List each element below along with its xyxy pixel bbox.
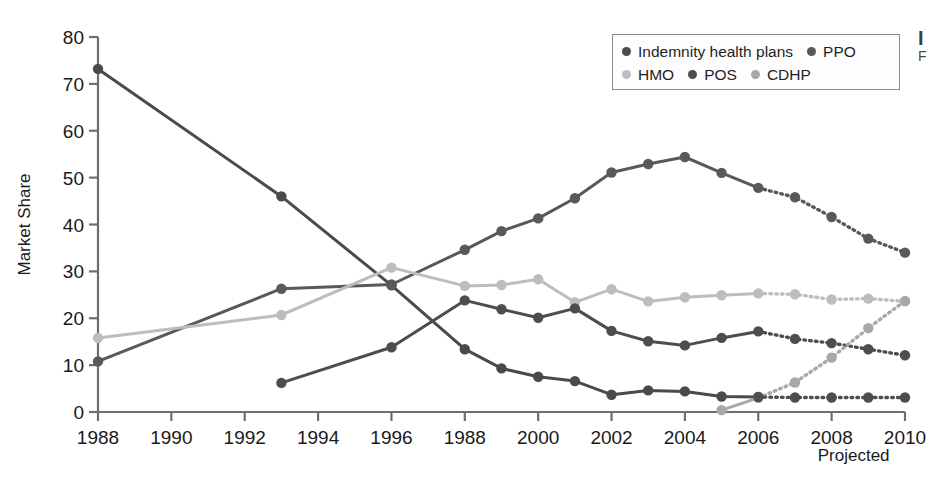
x-tick-label: 2006 (737, 427, 779, 448)
data-point[interactable] (643, 296, 653, 306)
data-point[interactable] (386, 279, 396, 289)
data-point[interactable] (276, 284, 286, 294)
legend-entry-cdhp[interactable]: CDHP (751, 67, 811, 83)
data-point[interactable] (826, 338, 836, 348)
data-point[interactable] (680, 340, 690, 350)
data-point[interactable] (790, 392, 800, 402)
legend-entry-pos[interactable]: POS (688, 67, 737, 83)
data-point[interactable] (533, 372, 543, 382)
data-point[interactable] (93, 64, 103, 74)
data-point[interactable] (863, 344, 873, 354)
data-point[interactable] (753, 183, 763, 193)
data-point[interactable] (460, 245, 470, 255)
data-point[interactable] (606, 167, 616, 177)
series-hmo (93, 262, 910, 343)
annotation-projected: Projected (818, 446, 890, 465)
side-caption-sub: F (918, 49, 950, 64)
data-point[interactable] (386, 342, 396, 352)
data-point[interactable] (533, 213, 543, 223)
data-point[interactable] (276, 310, 286, 320)
x-tick-label: 1992 (224, 427, 266, 448)
data-point[interactable] (826, 352, 836, 362)
data-point[interactable] (680, 386, 690, 396)
data-point[interactable] (716, 391, 726, 401)
legend-label-hmo: HMO (638, 67, 674, 83)
data-point[interactable] (790, 192, 800, 202)
data-point[interactable] (643, 159, 653, 169)
data-point[interactable] (863, 323, 873, 333)
legend-entry-hmo[interactable]: HMO (622, 67, 674, 83)
legend-label-pos: POS (704, 67, 737, 83)
data-point[interactable] (826, 212, 836, 222)
data-point[interactable] (643, 385, 653, 395)
data-point[interactable] (716, 168, 726, 178)
data-point[interactable] (496, 226, 506, 236)
chart-legend: Indemnity health plans PPO HMO POS CDHP (612, 34, 900, 90)
data-point[interactable] (570, 193, 580, 203)
data-point[interactable] (716, 290, 726, 300)
data-point[interactable] (753, 288, 763, 298)
data-point[interactable] (680, 292, 690, 302)
data-point[interactable] (460, 295, 470, 305)
data-point[interactable] (496, 280, 506, 290)
y-tick-label: 60 (63, 121, 84, 142)
data-point[interactable] (533, 313, 543, 323)
legend-row-2: HMO POS CDHP (622, 63, 890, 86)
data-point[interactable] (900, 392, 910, 402)
data-point[interactable] (716, 333, 726, 343)
data-point[interactable] (93, 356, 103, 366)
data-point[interactable] (276, 191, 286, 201)
data-point[interactable] (93, 333, 103, 343)
data-point[interactable] (460, 281, 470, 291)
x-tick-label: 2004 (664, 427, 707, 448)
legend-entry-indemnity[interactable]: Indemnity health plans (622, 44, 793, 60)
series-line-actual (98, 69, 758, 397)
data-point[interactable] (900, 247, 910, 257)
data-point[interactable] (716, 405, 726, 415)
x-tick-label: 1994 (297, 427, 340, 448)
data-point[interactable] (753, 392, 763, 402)
data-point[interactable] (570, 376, 580, 386)
x-tick-label: 2002 (590, 427, 632, 448)
legend-dot-hmo (622, 70, 631, 79)
data-point[interactable] (900, 350, 910, 360)
y-tick-label: 50 (63, 168, 84, 189)
x-tick-label: 2008 (810, 427, 852, 448)
data-point[interactable] (460, 344, 470, 354)
legend-row-1: Indemnity health plans PPO (622, 40, 890, 63)
legend-entry-ppo[interactable]: PPO (807, 44, 856, 60)
x-tick-label: 1990 (150, 427, 192, 448)
data-point[interactable] (643, 336, 653, 346)
data-point[interactable] (790, 289, 800, 299)
data-point[interactable] (496, 363, 506, 373)
data-point[interactable] (276, 378, 286, 388)
data-point[interactable] (863, 392, 873, 402)
legend-label-cdhp: CDHP (767, 67, 811, 83)
y-tick-label: 0 (73, 402, 84, 423)
data-point[interactable] (680, 152, 690, 162)
side-caption-title: I (918, 28, 950, 49)
data-point[interactable] (533, 274, 543, 284)
data-point[interactable] (790, 334, 800, 344)
data-point[interactable] (826, 294, 836, 304)
x-tick-label: 2000 (517, 427, 559, 448)
data-point[interactable] (863, 293, 873, 303)
data-point[interactable] (386, 262, 396, 272)
data-point[interactable] (606, 326, 616, 336)
data-point[interactable] (496, 304, 506, 314)
x-tick-label: 1988 (77, 427, 119, 448)
data-point[interactable] (606, 390, 616, 400)
data-point[interactable] (900, 296, 910, 306)
data-point[interactable] (826, 392, 836, 402)
data-point[interactable] (863, 233, 873, 243)
legend-dot-indemnity (622, 47, 631, 56)
data-point[interactable] (606, 284, 616, 294)
data-point[interactable] (570, 303, 580, 313)
y-tick-label: 40 (63, 215, 84, 236)
x-tick-label: 1996 (370, 427, 412, 448)
side-caption: I F (918, 28, 950, 64)
data-point[interactable] (790, 377, 800, 387)
x-tick-label: 2010 (884, 427, 926, 448)
y-tick-label: 20 (63, 308, 84, 329)
data-point[interactable] (753, 326, 763, 336)
